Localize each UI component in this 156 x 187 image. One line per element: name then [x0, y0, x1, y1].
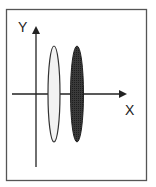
dark-ellipse	[71, 46, 84, 142]
light-ellipse	[48, 46, 60, 142]
diagram-canvas: Y X	[0, 0, 156, 187]
x-axis-label: X	[125, 102, 135, 118]
y-axis-label: Y	[18, 19, 28, 35]
